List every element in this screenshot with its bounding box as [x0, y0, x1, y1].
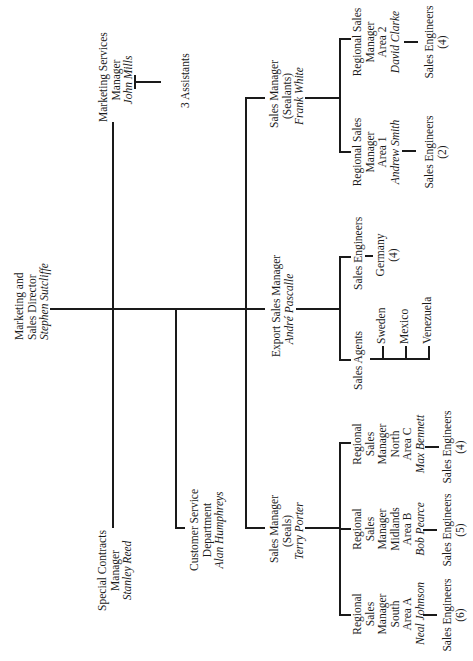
agents-tick: [339, 359, 351, 361]
count: (4): [454, 407, 467, 487]
export-tick: [245, 308, 265, 310]
node-engineers-area-c: Sales Engineers (4): [441, 407, 466, 487]
sealants-tick: [245, 97, 265, 99]
agent-venezuela: Venezuela: [421, 297, 434, 344]
person-name: Stephen Sutcliffe: [38, 278, 51, 340]
title: Special Contracts: [96, 528, 109, 613]
node-export-sales-manager: Export Sales Manager André Pascalle: [270, 261, 295, 357]
count: (5): [454, 490, 467, 570]
managers-column: [245, 98, 247, 528]
area-c-eng-link: [425, 446, 439, 448]
trunk-left: [112, 122, 114, 528]
seals-b-tick: [339, 528, 351, 530]
node-regional-area-a: Regional Sales Manager South Area A Neal…: [351, 583, 426, 645]
person-name: Frank White: [293, 64, 306, 128]
area: Area C: [401, 413, 414, 475]
count: (2): [436, 114, 449, 190]
title: Sales Director: [26, 278, 39, 340]
title: Sales Engineers: [441, 407, 454, 487]
node-engineers-area-b: Sales Engineers (5): [441, 490, 466, 570]
person-name: Neal Johnson: [414, 583, 427, 645]
seals-c-tick: [339, 442, 351, 444]
customer-service-tick: [175, 527, 185, 529]
title: (Sealants): [281, 64, 294, 128]
node-marketing-services-manager: Marketing Services Manager John Mills: [97, 38, 135, 122]
root-spine: [50, 308, 246, 310]
agent-venezuela-tick: [428, 346, 430, 359]
count: (4): [387, 230, 400, 280]
node-engineers-area-1: Sales Engineers (2): [423, 114, 448, 190]
agent-sweden: Sweden: [375, 308, 388, 344]
node-special-contracts-manager: Special Contracts Manager Stanley Reed: [96, 528, 134, 613]
mkt-services-link: [135, 81, 161, 83]
customer-service-link: [175, 309, 177, 529]
area: Area 2: [376, 4, 389, 80]
export-out: [296, 308, 340, 310]
title: Sales: [364, 413, 377, 475]
title: (Seals): [281, 499, 294, 563]
title: Manager: [364, 4, 377, 80]
sealants-out: [305, 97, 340, 99]
seals-tick: [245, 527, 265, 529]
node-engineers-area-a: Sales Engineers (6): [441, 575, 466, 655]
title: Regional Sales: [351, 4, 364, 80]
agent-mexico-tick: [405, 346, 407, 359]
agents-spine: [370, 358, 430, 360]
region: South: [389, 583, 402, 645]
title: Sales Engineers: [423, 114, 436, 190]
person-name: John Mills: [122, 38, 135, 122]
person-name: Terry Porter: [293, 499, 306, 563]
title: Sales Manager: [268, 499, 281, 563]
node-marketing-sales-director: Marketing and Sales Director Stephen Sut…: [13, 278, 51, 340]
sealants-bar: [339, 38, 341, 152]
area: Area B: [401, 498, 414, 560]
title: Marketing and: [13, 278, 26, 340]
title: Department: [201, 489, 214, 571]
title: Manager: [376, 413, 389, 475]
person-name: Alan Humphreys: [213, 489, 226, 571]
node-regional-area-b: Regional Sales Manager Midlands Area B B…: [351, 498, 426, 560]
count: (4): [436, 4, 449, 80]
node-engineers-area-2: Sales Engineers (4): [423, 4, 448, 80]
title: Manager: [110, 38, 123, 122]
area2-eng-link: [404, 41, 418, 43]
title: Export Sales Manager: [270, 261, 283, 357]
seals-out: [305, 527, 340, 529]
title: Regional: [351, 498, 364, 560]
title: Marketing Services: [97, 38, 110, 122]
area1-eng-link: [402, 150, 416, 152]
sealants-area1-tick: [339, 151, 351, 153]
title: Customer Service: [188, 489, 201, 571]
person-name: Max Bennett: [414, 413, 427, 475]
person-name: André Pascalle: [283, 261, 296, 357]
area: Area A: [401, 583, 414, 645]
node-regional-area-2: Regional Sales Manager Area 2 David Clar…: [351, 4, 401, 80]
node-customer-service: Customer Service Department Alan Humphre…: [188, 489, 226, 571]
region: North: [389, 413, 402, 475]
node-regional-area-1: Regional Sales Manager Area 1 Andrew Smi…: [351, 114, 401, 190]
title: Manager: [109, 528, 122, 613]
agent-mexico: Mexico: [398, 309, 411, 344]
sealants-area2-tick: [339, 38, 351, 40]
title: Regional: [351, 583, 364, 645]
node-sales-agents: Sales Agents: [352, 331, 365, 390]
seals-a-tick: [339, 614, 351, 616]
person-name: Andrew Smith: [389, 114, 402, 190]
person-name: Stanley Reed: [121, 528, 134, 613]
title: Sales: [364, 498, 377, 560]
germany-link: [365, 255, 373, 257]
title: Manager: [376, 498, 389, 560]
country: Germany: [374, 230, 387, 280]
node-export-engineers: Sales Engineers: [352, 217, 365, 290]
title: Sales Engineers: [441, 575, 454, 655]
title: Regional: [351, 413, 364, 475]
count: (6): [454, 575, 467, 655]
title: Sales Engineers: [423, 4, 436, 80]
node-regional-area-c: Regional Sales Manager North Area C Max …: [351, 413, 426, 475]
area: Area 1: [376, 114, 389, 190]
title: Sales: [364, 583, 377, 645]
title: Sales Manager: [268, 64, 281, 128]
export-bar: [339, 256, 341, 361]
person-name: Bob Pearce: [414, 498, 427, 560]
title: Manager: [376, 583, 389, 645]
